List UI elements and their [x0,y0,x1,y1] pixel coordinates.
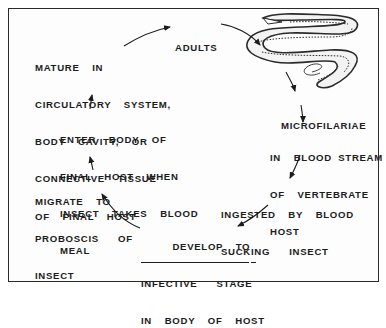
stage-adults: ADULTS [175,17,217,67]
arrow-worm-to-microfilariae [286,72,295,91]
stage-mature: MATURE IN CIRCULATORY SYSTEM, BODY CAVIT… [35,37,171,236]
stage-mature-line-5: OF FINAL HOST [35,211,171,223]
stage-blood-stream-line-1: IN BLOOD STREAM [270,152,383,164]
stage-enter-line-4: MEAL [60,245,198,257]
stage-migrate-line-3: INSECT [35,270,133,282]
stage-mature-line-1: MATURE IN [35,62,171,74]
worm-illustration-icon [247,14,358,88]
stage-develop-line-3: IN BODY OF HOST [141,315,265,327]
stage-mature-line-2: CIRCULATORY SYSTEM, [35,99,171,111]
stage-mature-line-3: BODY CAVITY, OR [35,136,171,148]
stage-adults-line: ADULTS [175,42,217,54]
develop-underline-tick [251,262,256,263]
stage-mature-line-4: CONNECTIVE TISSUE [35,173,171,185]
stage-develop-line-2: INFECTIVE STAGE [141,278,265,290]
